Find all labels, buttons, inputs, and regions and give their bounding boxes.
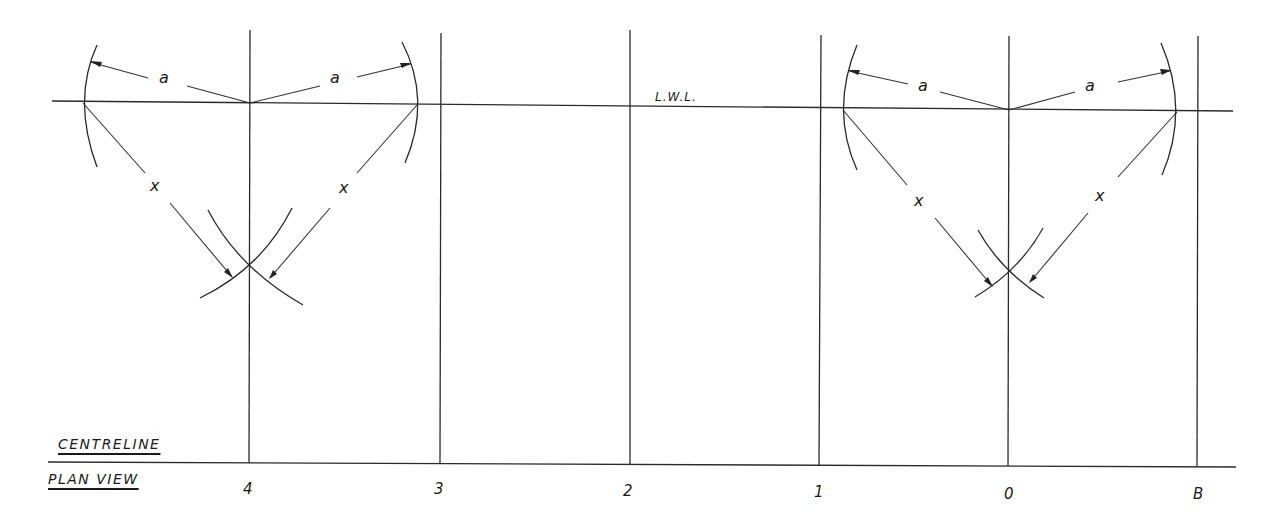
right-construction <box>843 43 1177 298</box>
arrowhead-icon <box>848 70 860 75</box>
station-label-0: 0 <box>1004 485 1014 503</box>
station-label-2: 2 <box>623 482 633 500</box>
station-line-3 <box>440 33 441 464</box>
radius-x-right <box>357 105 417 173</box>
station-line-0 <box>1008 36 1009 466</box>
arc-x-right <box>978 230 1044 298</box>
lwl-label: L.W.L. <box>655 90 697 104</box>
dim-a-label: a <box>157 68 171 87</box>
station-line-1 <box>819 35 821 465</box>
radius-x-right <box>1118 112 1177 177</box>
station-line-B <box>1197 36 1198 466</box>
arrowhead-icon <box>1160 69 1171 75</box>
lwl-line <box>52 101 1233 111</box>
radius-x-left-2 <box>935 218 992 286</box>
station-label-1: 1 <box>814 483 824 501</box>
dim-x-label: x <box>337 178 350 197</box>
centreline-label: CENTRELINE <box>58 436 160 452</box>
dim-x-label: x <box>912 191 925 210</box>
radius-a-right <box>250 86 320 103</box>
dim-a-label: a <box>328 68 342 87</box>
radius-x-left <box>83 103 145 173</box>
station-line-4 <box>249 30 250 463</box>
dim-x-label: x <box>148 176 161 195</box>
arrowhead-icon <box>400 63 411 68</box>
dim-a-label: a <box>1083 76 1097 95</box>
station-label-B: B <box>1193 485 1203 503</box>
radius-x-right-2 <box>1030 213 1088 282</box>
station-label-3: 3 <box>434 480 444 498</box>
radius-a-right <box>1009 92 1075 110</box>
radius-x-left <box>843 110 907 185</box>
dim-a-label: a <box>916 76 930 95</box>
plan-view-label: PLAN VIEW <box>48 471 139 487</box>
radius-x-left-2 <box>170 203 232 277</box>
radius-a-left-2 <box>187 86 250 103</box>
arc-x-right <box>208 210 303 305</box>
station-label-4: 4 <box>243 480 253 498</box>
arrowhead-icon <box>90 61 102 67</box>
arc-right-a <box>1161 43 1176 175</box>
radius-x-right-2 <box>270 208 330 278</box>
arc-right-a <box>402 42 418 163</box>
centreline-line <box>48 462 1236 467</box>
radius-a-left-2 <box>940 92 1009 110</box>
dim-x-label: x <box>1093 186 1106 205</box>
